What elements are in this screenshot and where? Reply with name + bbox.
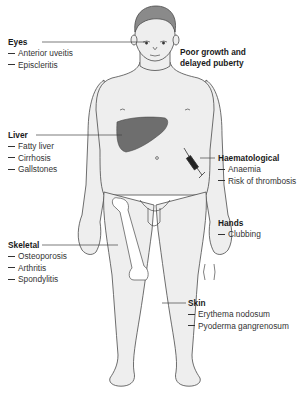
skeletal-item: Spondylitis bbox=[8, 274, 67, 285]
liver-item: Fatty liver bbox=[8, 141, 57, 152]
skeletal-item: Arthritis bbox=[8, 263, 67, 274]
skeletal-item: Osteoporosis bbox=[8, 251, 67, 262]
haematological-item: Risk of thrombosis bbox=[218, 176, 296, 187]
skin-item: Pyoderma gangrenosum bbox=[188, 321, 289, 332]
growth-label: Poor growth and delayed puberty bbox=[180, 47, 246, 70]
eyes-item: Episcleritis bbox=[8, 60, 73, 71]
hands-item: Clubbing bbox=[218, 229, 261, 240]
growth-line1: Poor growth and bbox=[180, 47, 246, 58]
haematological-title: Haematological bbox=[218, 153, 296, 164]
skin-title: Skin bbox=[188, 298, 289, 309]
liver-item: Gallstones bbox=[8, 164, 57, 175]
liver-title: Liver bbox=[8, 130, 57, 141]
growth-line2: delayed puberty bbox=[180, 58, 246, 69]
skeletal-label: Skeletal Osteoporosis Arthritis Spondyli… bbox=[8, 240, 67, 285]
skin-item: Erythema nodosum bbox=[188, 309, 289, 320]
right-leg bbox=[156, 192, 206, 386]
haematological-label: Haematological Anaemia Risk of thrombosi… bbox=[218, 153, 296, 187]
haematological-item: Anaemia bbox=[218, 164, 296, 175]
liver-label: Liver Fatty liver Cirrhosis Gallstones bbox=[8, 130, 57, 175]
eyes-title: Eyes bbox=[8, 37, 73, 48]
eyes-item: Anterior uveitis bbox=[8, 48, 73, 59]
eyes-label: Eyes Anterior uveitis Episcleritis bbox=[8, 37, 73, 71]
skin-label: Skin Erythema nodosum Pyoderma gangrenos… bbox=[188, 298, 289, 332]
hands-label: Hands Clubbing bbox=[218, 218, 261, 241]
liver-item: Cirrhosis bbox=[8, 153, 57, 164]
skeletal-title: Skeletal bbox=[8, 240, 67, 251]
hands-title: Hands bbox=[218, 218, 261, 229]
